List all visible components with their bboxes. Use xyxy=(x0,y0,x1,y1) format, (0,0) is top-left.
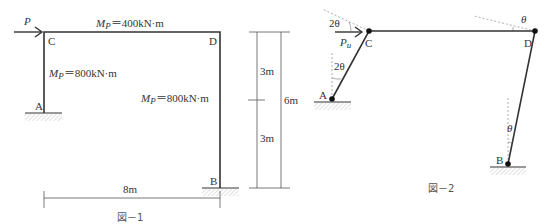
frame-1 xyxy=(44,32,220,188)
node-label-A: A xyxy=(35,100,43,112)
angle-label-D: θ xyxy=(521,13,527,25)
node-label-D2: D xyxy=(524,37,532,49)
fixed-support-A2 xyxy=(314,102,351,110)
load-arrow-P xyxy=(14,27,42,37)
angle-label-C: 2θ xyxy=(329,17,340,29)
left-column-mp-label: MP＝800kN·m xyxy=(48,67,117,81)
right-column-mp-label: MP＝800kN·m xyxy=(140,92,209,106)
hinge-B xyxy=(505,161,511,167)
beam-mp-label: MP＝400kN·m xyxy=(95,17,164,31)
node-label-C2: C xyxy=(365,37,372,49)
hinge-A xyxy=(329,96,335,102)
load-label-Pu: Pu xyxy=(339,36,352,50)
angle-arcs xyxy=(332,22,513,143)
node-label-D: D xyxy=(209,35,217,47)
load-label-P: P xyxy=(23,15,31,27)
node-label-A2: A xyxy=(319,89,327,101)
dim-upper-3m: 3m xyxy=(260,65,275,77)
diagram-canvas: P C D A B MP＝400kN·m MP＝800kN·m MP＝800kN… xyxy=(0,0,546,224)
hinge-D xyxy=(532,28,538,34)
fixed-support-A xyxy=(25,113,62,121)
node-label-B: B xyxy=(210,175,217,187)
dim-lower-3m: 3m xyxy=(260,132,275,144)
figure-1-caption: 図－1 xyxy=(117,212,143,223)
dim-total-6m: 6m xyxy=(284,94,299,106)
hinge-C xyxy=(366,28,372,34)
figure-2-caption: 図－2 xyxy=(428,183,454,194)
angle-label-B: θ xyxy=(507,122,513,134)
fixed-support-B2 xyxy=(490,167,526,175)
node-label-B2: B xyxy=(496,154,503,166)
figure-2: Pu C D A B 2θ 2θ θ θ 図－2 xyxy=(314,9,538,194)
angle-label-A: 2θ xyxy=(334,60,345,72)
figure-1: P C D A B MP＝400kN·m MP＝800kN·m MP＝800kN… xyxy=(14,15,299,223)
dim-span-8m: 8m xyxy=(123,183,138,195)
fixed-support-B xyxy=(202,188,239,196)
node-label-C: C xyxy=(48,35,55,47)
vertical-dimensions xyxy=(248,32,290,188)
mechanism-frame xyxy=(332,31,535,164)
